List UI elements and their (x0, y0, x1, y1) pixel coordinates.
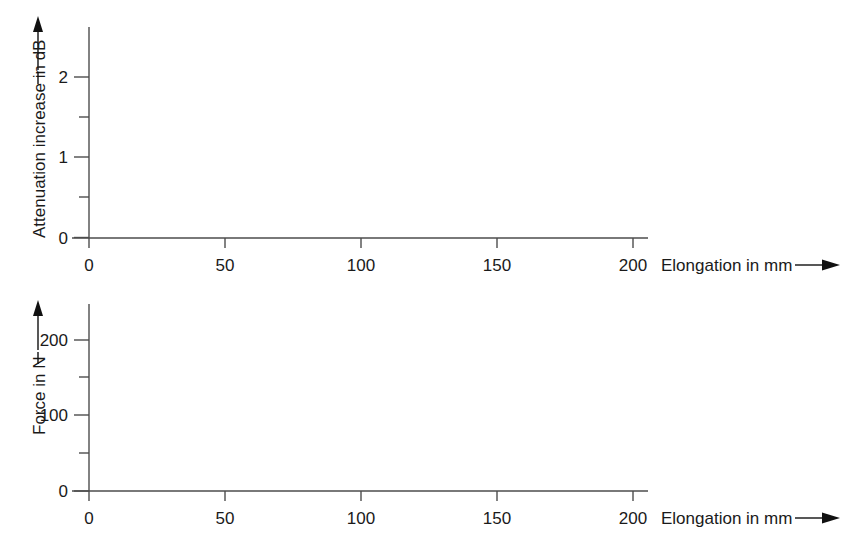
y-axis-ticks (74, 340, 89, 491)
x-tick-label-0: 0 (84, 509, 93, 528)
x-axis-title: Elongation in mm (661, 509, 792, 528)
y-tick-label-1: 1 (59, 148, 68, 167)
force-plot-svg: Force in N 0 100 200 (0, 290, 864, 556)
x-tick-label-100: 100 (347, 256, 375, 275)
y-axis-title: Attenuation increase in dB (30, 40, 49, 238)
x-tick-label-100: 100 (347, 509, 375, 528)
x-axis-ticks (89, 238, 633, 248)
attenuation-plot-svg: Attenuation increase in dB 0 1 2 (0, 0, 864, 290)
x-axis-arrow-icon (795, 513, 840, 524)
y-tick-label-200: 200 (40, 331, 68, 350)
y-tick-label-100: 100 (40, 406, 68, 425)
y-tick-label-0: 0 (59, 482, 68, 501)
x-tick-label-0: 0 (84, 256, 93, 275)
x-tick-label-150: 150 (483, 256, 511, 275)
x-tick-label-50: 50 (216, 256, 235, 275)
x-axis-title: Elongation in mm (661, 256, 792, 275)
y-axis-ticks (74, 77, 89, 238)
chart-attenuation-vs-elongation: Attenuation increase in dB 0 1 2 (0, 0, 864, 290)
x-tick-label-150: 150 (483, 509, 511, 528)
x-axis-arrow-icon (795, 260, 840, 271)
figure-container: Attenuation increase in dB 0 1 2 (0, 0, 864, 556)
x-axis-ticks (89, 491, 633, 501)
chart-force-vs-elongation: Force in N 0 100 200 (0, 290, 864, 556)
x-tick-label-200: 200 (619, 256, 647, 275)
x-tick-label-200: 200 (619, 509, 647, 528)
x-tick-label-50: 50 (216, 509, 235, 528)
y-tick-label-2: 2 (59, 68, 68, 87)
y-tick-label-0: 0 (59, 229, 68, 248)
